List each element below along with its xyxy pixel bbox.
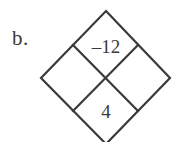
figure-label: b. (12, 28, 29, 49)
diamond-puzzle-graphic (0, 0, 176, 142)
diamond-cell-top-value: –12 (92, 37, 121, 56)
diamond-cell-bottom-value: 4 (101, 102, 111, 121)
diamond-puzzle-figure: b. –12 4 (0, 0, 176, 142)
